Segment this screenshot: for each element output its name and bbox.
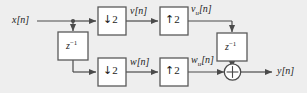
down-arrow-icon: ↓ [103,64,112,77]
label-input-signal: x[n] [12,15,29,25]
label-vu-signal: vu[n] [191,4,212,17]
diagram-wires [0,0,307,93]
text-delay-left-exponent: −1 [70,39,77,47]
label-wu-signal: wu[n] [191,55,214,68]
up-arrow-icon: ↑ [165,13,174,26]
label-v-signal: v[n] [130,6,147,16]
up-arrow-icon: ↑ [165,64,174,77]
text-upsampler-lower: ↑2 [165,65,180,76]
text-upsampler-upper-factor: 2 [174,13,180,25]
block-diagram-canvas: x[n] v[n] vu[n] w[n] wu[n] y[n] ↓2 ↑2 z−… [0,0,307,93]
text-downsampler-upper-factor: 2 [112,13,118,25]
junction-dot [71,19,75,23]
text-upsampler-upper: ↑2 [165,14,180,25]
label-w-signal: w[n] [130,57,149,67]
label-wu-base: w [191,54,198,65]
adder-symbol [224,64,240,80]
text-delay-right: z−1 [225,41,236,52]
text-downsampler-lower: ↓2 [103,65,118,76]
text-delay-right-exponent: −1 [229,40,236,48]
label-wu-tail: [n] [201,54,214,65]
label-output-signal: y[n] [277,66,294,76]
text-delay-left: z−1 [66,40,77,51]
text-downsampler-lower-factor: 2 [112,64,118,76]
text-downsampler-upper: ↓2 [103,14,118,25]
down-arrow-icon: ↓ [103,13,112,26]
label-vu-tail: [n] [199,3,212,14]
text-upsampler-lower-factor: 2 [174,64,180,76]
